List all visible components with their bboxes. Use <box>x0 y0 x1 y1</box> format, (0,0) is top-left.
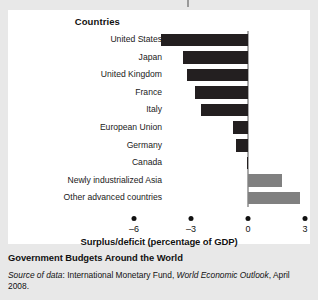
x-axis-tick-label: –6 <box>129 224 139 234</box>
chart-bar <box>233 121 248 134</box>
bar-rows: United StatesJapanUnited KingdomFranceIt… <box>8 31 310 207</box>
figure-caption: Government Budgets Around the World Sour… <box>8 252 310 292</box>
chart-panel: Countries United StatesJapanUnited Kingd… <box>8 10 310 244</box>
country-label: Newly industrialized Asia <box>67 175 162 185</box>
x-axis-tick-dot <box>189 216 194 221</box>
chart-row: United Kingdom <box>8 66 310 84</box>
chart-row: European Union <box>8 119 310 137</box>
chart-row: Japan <box>8 49 310 67</box>
chart-row: Italy <box>8 101 310 119</box>
chart-bar <box>195 86 248 99</box>
figure-root: Countries United StatesJapanUnited Kingd… <box>0 0 318 300</box>
chart-row: United States <box>8 31 310 49</box>
chart-row: Canada <box>8 154 310 172</box>
country-label: Germany <box>127 140 162 150</box>
chart-bar <box>183 51 248 64</box>
chart-bar <box>248 174 282 187</box>
x-axis-tick-label: –3 <box>186 224 196 234</box>
chart-bar <box>161 34 248 47</box>
chart-bar <box>247 157 248 170</box>
chart-plot-area: Countries United StatesJapanUnited Kingd… <box>8 10 310 244</box>
x-axis-tick-label: 0 <box>245 224 250 234</box>
countries-column-header: Countries <box>8 16 120 27</box>
country-label: Other advanced countries <box>64 192 162 202</box>
country-label: European Union <box>100 122 162 132</box>
caption-source: Source of data: International Monetary F… <box>8 270 310 292</box>
country-label: United States <box>110 34 162 44</box>
source-publication: World Economic Outlook <box>177 270 269 280</box>
chart-row: Newly industrialized Asia <box>8 172 310 190</box>
chart-bar <box>236 139 248 152</box>
x-axis-title: Surplus/deficit (percentage of GDP) <box>8 236 310 247</box>
caption-title: Government Budgets Around the World <box>8 252 310 263</box>
chart-bar <box>201 104 249 117</box>
chart-row: Other advanced countries <box>8 189 310 207</box>
page-artifact-mark <box>187 0 189 7</box>
source-organization: International Monetary Fund, <box>67 270 176 280</box>
x-axis: Surplus/deficit (percentage of GDP) –6–3… <box>8 208 310 248</box>
chart-bar <box>187 69 248 82</box>
x-axis-tick-label: 3 <box>302 224 307 234</box>
x-axis-tick-dot <box>246 216 251 221</box>
x-axis-tick-dot <box>303 216 308 221</box>
country-label: Italy <box>146 104 162 114</box>
chart-row: France <box>8 84 310 102</box>
country-label: Japan <box>139 52 162 62</box>
country-label: United Kingdom <box>101 69 162 79</box>
source-prefix: Source of data <box>8 270 62 280</box>
x-axis-tick-dot <box>132 216 137 221</box>
country-label: France <box>135 87 162 97</box>
country-label: Canada <box>132 157 162 167</box>
chart-bar <box>248 192 300 205</box>
chart-row: Germany <box>8 137 310 155</box>
